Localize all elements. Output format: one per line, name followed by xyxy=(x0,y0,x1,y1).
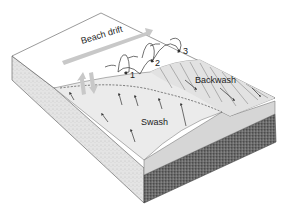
step-1-label: 1 xyxy=(130,70,135,80)
swash-label: Swash xyxy=(141,117,168,127)
backwash-label: Backwash xyxy=(195,75,236,85)
beach-drift-diagram: Beach drift Backwash Swash 1 2 3 xyxy=(0,0,287,217)
step-2-label: 2 xyxy=(155,58,160,68)
step-3-label: 3 xyxy=(183,46,188,56)
